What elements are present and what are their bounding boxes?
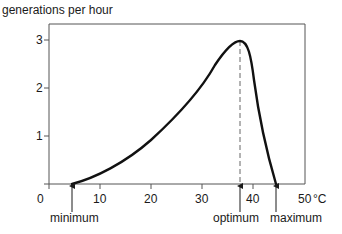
y-tick-label-1: 1 <box>36 129 43 143</box>
x-tick-label-10: 10 <box>93 192 107 206</box>
x-tick-label-40: 40 <box>246 192 260 206</box>
growth-curve <box>72 41 276 184</box>
x-unit-label: °C <box>313 192 327 206</box>
growth-rate-chart: generations per hour 3 2 1 0 10 20 30 40… <box>0 0 342 234</box>
y-ticks <box>44 40 49 136</box>
y-tick-label-3: 3 <box>36 33 43 47</box>
x-tick-label-50: 50 <box>298 192 312 206</box>
plot-frame <box>44 24 305 184</box>
y-axis-label: generations per hour <box>2 3 113 17</box>
maximum-label: maximum <box>270 211 322 225</box>
x-tick-label-30: 30 <box>195 192 209 206</box>
optimum-label: optimum <box>213 211 259 225</box>
x-tick-label-0: 0 <box>37 192 44 206</box>
x-ticks <box>49 184 253 189</box>
y-tick-label-2: 2 <box>36 81 43 95</box>
minimum-label: minimum <box>50 211 99 225</box>
x-tick-label-20: 20 <box>144 192 158 206</box>
